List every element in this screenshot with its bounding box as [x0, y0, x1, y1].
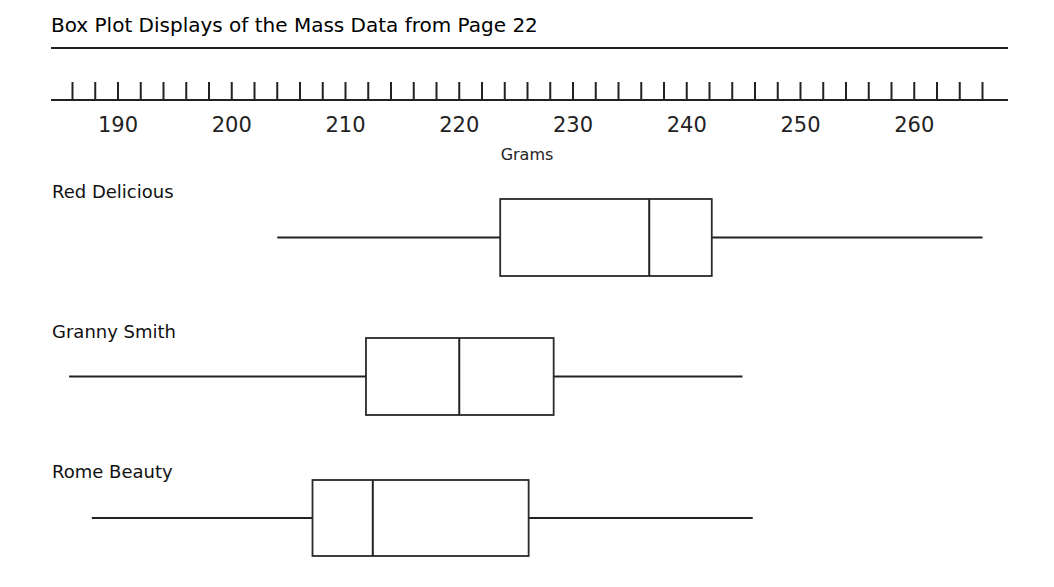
box-plot-row: Red Delicious [52, 181, 983, 276]
tick-label: 210 [325, 113, 365, 137]
tick-label: 200 [212, 113, 252, 137]
series-label: Rome Beauty [52, 461, 173, 482]
x-axis-label: Grams [501, 145, 554, 164]
tick-label: 250 [780, 113, 820, 137]
x-axis: 190200210220230240250260 [51, 82, 1008, 137]
iqr-box [500, 199, 712, 276]
tick-label: 220 [439, 113, 479, 137]
series-label: Red Delicious [52, 181, 174, 202]
chart-title: Box Plot Displays of the Mass Data from … [51, 13, 538, 37]
box-plots: Red DeliciousGranny SmithRome Beauty [52, 181, 983, 556]
tick-label: 240 [667, 113, 707, 137]
box-plot-row: Rome Beauty [52, 461, 753, 556]
tick-label: 230 [553, 113, 593, 137]
box-plot-chart: Box Plot Displays of the Mass Data from … [0, 0, 1054, 587]
box-plot-row: Granny Smith [52, 321, 742, 415]
tick-label: 260 [894, 113, 934, 137]
tick-label: 190 [98, 113, 138, 137]
series-label: Granny Smith [52, 321, 176, 342]
iqr-box [313, 480, 529, 556]
